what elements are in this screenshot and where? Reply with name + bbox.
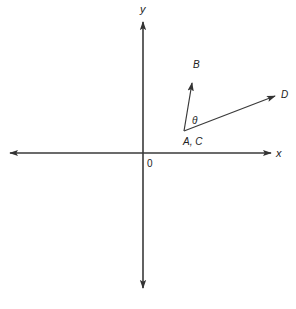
point-ac-label: A, C [182, 136, 203, 147]
vector-cd [184, 96, 275, 131]
angle-theta-label: θ [192, 115, 198, 126]
point-b-label: B [193, 59, 200, 70]
y-axis-label: y [139, 3, 147, 15]
origin-label: 0 [147, 158, 153, 169]
point-d-label: D [281, 89, 288, 100]
vector-ab [184, 83, 192, 131]
diagram-canvas: y x 0 B D θ A, C [0, 0, 296, 309]
x-axis-label: x [275, 147, 282, 159]
